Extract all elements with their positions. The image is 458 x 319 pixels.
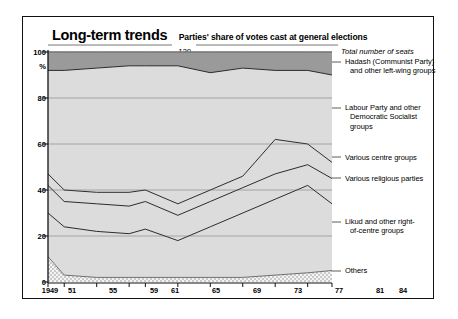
legend-hadash-line2: and other left-wing groups [350,66,435,75]
legend-label-centre: Various centre groups [345,153,458,162]
x-tickmarks [48,283,332,287]
leader-lines [332,62,341,271]
legend-label-religious: Various religious parties [345,174,458,183]
legend-religious-line1: Various religious parties [345,174,423,183]
legend-label-likud: Likud and other right- of-centre groups [345,217,458,236]
legend-likud-line2: of-centre groups [350,226,404,235]
legend-hadash-line1: Hadash (Communist Party) [345,57,434,66]
legend-label-labour: Labour Party and other Democratic Social… [345,103,458,131]
legend-centre-line1: Various centre groups [345,153,417,162]
legend-labour-line2: Democratic Socialist [350,112,417,121]
legend-likud-line1: Likud and other right- [345,217,415,226]
legend-labour-line3: groups [350,122,373,131]
legend-labour-line1: Labour Party and other [345,103,421,112]
legend-others-line1: Others [345,266,367,275]
chart-container: Long-term trends Parties' share of votes… [0,0,458,319]
series-layer [48,52,332,282]
legend-label-others: Others [345,266,458,275]
legend-label-hadash: Hadash (Communist Party) and other left-… [345,57,458,76]
